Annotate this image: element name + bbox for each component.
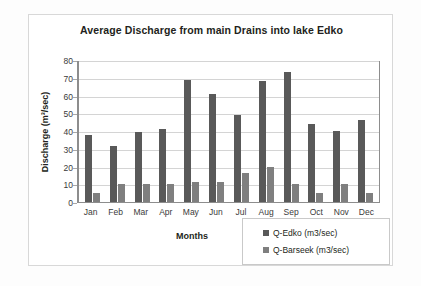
bar: [284, 72, 291, 202]
x-axis-tick-label: Jan: [78, 207, 103, 217]
x-axis-tick-label: Jun: [203, 207, 228, 217]
legend-label: Q-Edko (m3/sec): [273, 228, 337, 238]
bar-group: [130, 62, 155, 202]
bar-group: [154, 62, 179, 202]
plot-area: [77, 61, 380, 203]
bar: [192, 182, 199, 202]
bar-group: [254, 62, 279, 202]
bar: [292, 184, 299, 202]
x-axis-tick-label: Jul: [228, 207, 253, 217]
y-axis-tick-label: 60: [51, 92, 73, 102]
bar: [267, 167, 274, 203]
bar: [259, 81, 266, 202]
bar: [217, 182, 224, 202]
bar: [110, 146, 117, 202]
bar: [358, 120, 365, 202]
bar-group: [328, 62, 353, 202]
bar-group: [105, 62, 130, 202]
bar: [366, 193, 373, 202]
y-axis-tick-label: 40: [51, 127, 73, 137]
bar: [184, 80, 191, 202]
x-axis-tick-label: Oct: [304, 207, 329, 217]
x-axis-tick-label: Nov: [329, 207, 354, 217]
chart-container: Average Discharge from main Drains into …: [28, 14, 393, 266]
bar: [316, 193, 323, 202]
bar-group: [353, 62, 378, 202]
bar-group: [303, 62, 328, 202]
x-axis-tick-label: Aug: [254, 207, 279, 217]
y-axis-tick-mark: [73, 203, 77, 204]
bar: [143, 184, 150, 202]
legend-item[interactable]: Q-Barseek (m3/sec): [263, 245, 389, 255]
bar: [167, 184, 174, 202]
bar: [135, 132, 142, 202]
chart-title: Average Discharge from main Drains into …: [29, 24, 394, 36]
bar: [118, 184, 125, 202]
x-axis-tick-label: May: [178, 207, 203, 217]
bar: [85, 135, 92, 202]
bar: [209, 94, 216, 202]
bar: [93, 193, 100, 202]
legend-swatch-icon: [263, 230, 269, 236]
y-axis-tick-label: 20: [51, 163, 73, 173]
y-axis-tick-label: 70: [51, 74, 73, 84]
y-axis-tick-label: 80: [51, 56, 73, 66]
bar: [308, 124, 315, 202]
chart-legend: Q-Edko (m3/sec)Q-Barseek (m3/sec): [242, 218, 390, 265]
bar-group: [80, 62, 105, 202]
y-axis-tick-label: 0: [51, 198, 73, 208]
x-axis-tick-labels: JanFebMarAprMayJunJulAugSepOctNovDec: [77, 207, 380, 217]
bar: [234, 115, 241, 202]
chart-page: Average Discharge from main Drains into …: [0, 0, 421, 286]
bar: [341, 184, 348, 202]
x-axis-tick-label: Sep: [279, 207, 304, 217]
bar: [333, 131, 340, 202]
bar: [242, 173, 249, 202]
y-axis-ticks: 01020304050607080: [47, 61, 73, 203]
legend-label: Q-Barseek (m3/sec): [273, 245, 349, 255]
bar-group: [279, 62, 304, 202]
legend-swatch-icon: [263, 247, 269, 253]
y-axis-tick-label: 30: [51, 145, 73, 155]
bar-group: [204, 62, 229, 202]
x-axis-tick-label: Apr: [153, 207, 178, 217]
y-axis-tick-label: 10: [51, 180, 73, 190]
x-axis-tick-label: Mar: [128, 207, 153, 217]
bar-group: [179, 62, 204, 202]
bar: [159, 129, 166, 202]
bar-groups: [79, 62, 379, 202]
legend-item[interactable]: Q-Edko (m3/sec): [263, 228, 389, 238]
x-axis-tick-label: Dec: [354, 207, 379, 217]
bar-group: [229, 62, 254, 202]
y-axis-tick-label: 50: [51, 109, 73, 119]
x-axis-tick-label: Feb: [103, 207, 128, 217]
